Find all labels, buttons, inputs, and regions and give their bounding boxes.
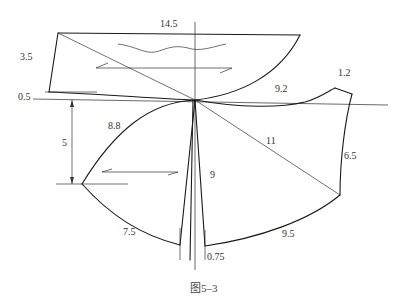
lower-piece xyxy=(56,100,340,260)
right-tip-edge xyxy=(335,88,352,94)
arrow-hook-lower-left xyxy=(102,169,112,172)
bottom-right-curve xyxy=(205,195,340,246)
top-edge-line xyxy=(58,33,300,35)
label-bottom-left-curve: 7.5 xyxy=(123,226,136,237)
arrow-up-icon xyxy=(70,100,74,107)
arrow-hook-left xyxy=(96,63,108,68)
pattern-diagram: 14.5 3.5 0.5 5 8.8 9.2 1.2 11 6.5 9 7.5 … xyxy=(0,0,404,305)
label-left-offset: 0.5 xyxy=(18,91,31,102)
dart-right-leg xyxy=(195,100,205,246)
left-edge-line xyxy=(49,33,58,92)
bottom-edge-curve xyxy=(49,92,195,100)
label-center-length: 9 xyxy=(210,169,215,180)
label-right-side: 6.5 xyxy=(344,150,357,161)
label-vertical-drop: 5 xyxy=(62,137,67,148)
label-dart-width: 0.75 xyxy=(207,251,225,262)
arrow-down-icon xyxy=(70,177,74,184)
wavy-grainline xyxy=(118,44,226,52)
label-bottom-right-curve: 9.5 xyxy=(282,228,295,239)
upper-piece xyxy=(45,33,300,100)
label-right-tip: 1.2 xyxy=(338,67,351,78)
left-upper-curve xyxy=(82,100,195,184)
label-diagonal: 11 xyxy=(266,135,276,146)
figure-caption: 图5–3 xyxy=(190,282,218,294)
label-right-curve: 9.2 xyxy=(275,83,288,94)
diagonal-guide-lower xyxy=(195,100,340,195)
arrow-hook-right xyxy=(220,68,232,73)
diagonal-guide-upper xyxy=(58,33,195,100)
label-upper-curve: 8.8 xyxy=(108,120,121,131)
right-side-edge xyxy=(340,94,352,195)
dart-center-line xyxy=(190,100,193,260)
label-top-width: 14.5 xyxy=(160,18,178,29)
dimension-labels: 14.5 3.5 0.5 5 8.8 9.2 1.2 11 6.5 9 7.5 … xyxy=(18,18,357,262)
label-left-height: 3.5 xyxy=(20,51,33,62)
arrow-hook-lower-right xyxy=(168,172,178,175)
